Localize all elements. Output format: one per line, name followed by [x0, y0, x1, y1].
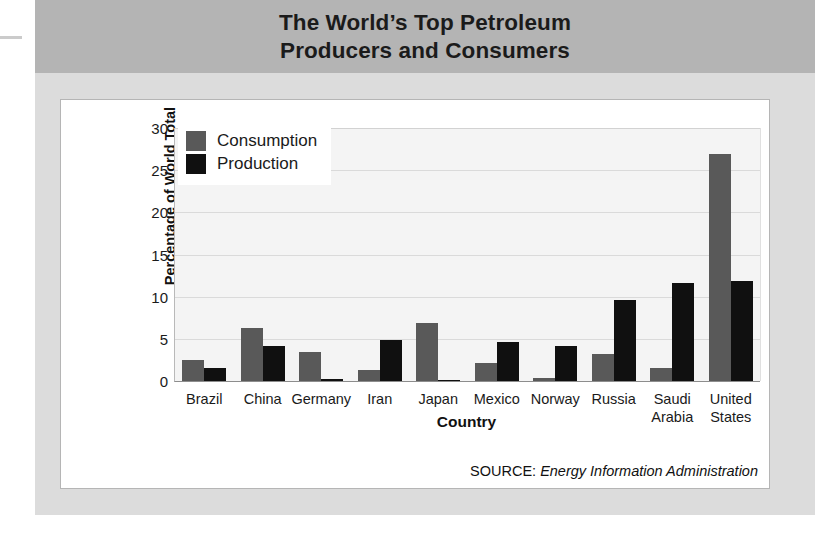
- bar-iran-production[interactable]: [380, 340, 402, 381]
- bar-norway-production[interactable]: [555, 346, 577, 381]
- legend-swatch-consumption: [186, 131, 206, 151]
- bar-group: Russia: [585, 128, 644, 381]
- plot-right-edge: [760, 128, 761, 381]
- bar-japan-consumption[interactable]: [416, 323, 438, 381]
- page-title-line-1: The World’s Top Petroleum: [279, 9, 571, 36]
- page-edge-mark: [0, 36, 22, 39]
- source-text: Energy Information Administration: [540, 463, 758, 479]
- bar-russia-production[interactable]: [614, 300, 636, 381]
- page-title: The World’s Top Petroleum Producers and …: [279, 9, 571, 64]
- bar-china-production[interactable]: [263, 346, 285, 381]
- bar-brazil-consumption[interactable]: [182, 360, 204, 381]
- bar-group: Iran: [351, 128, 410, 381]
- legend-item-consumption[interactable]: Consumption: [186, 131, 317, 151]
- bar-russia-consumption[interactable]: [592, 354, 614, 381]
- legend-item-production[interactable]: Production: [186, 154, 317, 174]
- y-tick-label-20: 20: [151, 204, 168, 221]
- bar-brazil-production[interactable]: [204, 368, 226, 381]
- chart-title-band: The World’s Top Petroleum Producers and …: [35, 0, 815, 73]
- bar-united-states-consumption[interactable]: [709, 154, 731, 381]
- y-tick-label-0: 0: [160, 373, 168, 390]
- bar-china-consumption[interactable]: [241, 328, 263, 381]
- bar-group: United States: [702, 128, 761, 381]
- bar-group: Norway: [526, 128, 585, 381]
- y-tick-label-10: 10: [151, 288, 168, 305]
- legend-label-production: Production: [217, 154, 298, 174]
- source-label: SOURCE:: [470, 463, 536, 479]
- y-tick-label-15: 15: [151, 246, 168, 263]
- legend-swatch-production: [186, 154, 206, 174]
- chart-legend: Consumption Production: [178, 122, 331, 185]
- chart-card: Percentage of World Total 051015202530 B…: [60, 99, 770, 489]
- page-title-line-2: Producers and Consumers: [279, 37, 571, 64]
- bar-iran-consumption[interactable]: [358, 370, 380, 381]
- bar-saudi-arabia-production[interactable]: [672, 283, 694, 381]
- bar-germany-consumption[interactable]: [299, 352, 321, 381]
- bar-united-states-production[interactable]: [731, 281, 753, 381]
- bar-mexico-production[interactable]: [497, 342, 519, 381]
- bar-saudi-arabia-consumption[interactable]: [650, 368, 672, 381]
- y-tick-label-30: 30: [151, 120, 168, 137]
- bar-mexico-consumption[interactable]: [475, 363, 497, 381]
- bar-group: Saudi Arabia: [643, 128, 702, 381]
- bar-norway-consumption[interactable]: [533, 378, 555, 381]
- legend-label-consumption: Consumption: [217, 131, 317, 151]
- source-note: SOURCE: Energy Information Administratio…: [470, 463, 758, 479]
- y-tick-label-5: 5: [160, 330, 168, 347]
- bar-japan-production[interactable]: [438, 380, 460, 382]
- bar-germany-production[interactable]: [321, 379, 343, 381]
- bar-group: Japan: [409, 128, 468, 381]
- bar-group: Mexico: [468, 128, 527, 381]
- y-tick-label-25: 25: [151, 162, 168, 179]
- x-axis-title: Country: [174, 413, 759, 431]
